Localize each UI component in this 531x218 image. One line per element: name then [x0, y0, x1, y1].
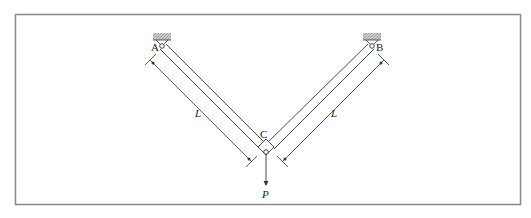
load-label-p: P	[261, 188, 269, 200]
node-label-b: B	[376, 41, 383, 53]
length-label-bc: L	[330, 107, 337, 119]
member-bc	[266, 44, 374, 149]
pin-c	[264, 150, 269, 155]
ground-hatch-a	[153, 33, 171, 40]
diagram-frame	[16, 15, 521, 205]
node-label-c: C	[260, 128, 267, 140]
node-label-a: A	[151, 41, 159, 53]
ground-hatch-b	[363, 33, 381, 40]
length-label-ac: L	[194, 107, 201, 119]
pin-b	[370, 44, 375, 49]
truss-diagram: A B C L L P	[0, 0, 531, 218]
member-ac	[160, 44, 266, 147]
pin-a	[160, 44, 165, 49]
